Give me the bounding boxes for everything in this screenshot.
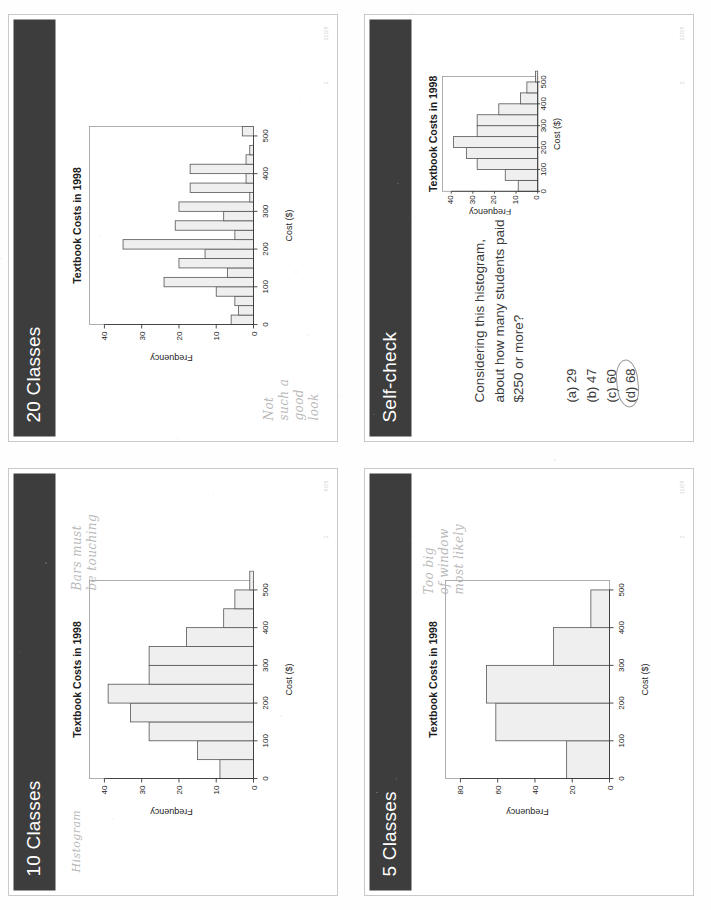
footer-stamp: 10/29 (322, 27, 328, 41)
x-tick-label: 500 (260, 129, 269, 143)
histogram-bar (190, 183, 253, 192)
footer-dots: · · · · · · · · · · · (677, 186, 683, 271)
y-tick-label: 20 (174, 785, 183, 794)
x-tick-label: 300 (260, 204, 269, 218)
option-c[interactable]: (c) 60 (601, 369, 621, 403)
footer-dots: · · · · · · · · · · · (321, 640, 327, 725)
slide-header-band: 10 Classes (13, 474, 55, 891)
option-d-value: 68 (622, 369, 637, 383)
option-b[interactable]: (b) 47 (581, 369, 601, 403)
histogram-bar (149, 722, 253, 741)
histogram-bar (234, 590, 253, 609)
footer-page-number: 2 (322, 82, 328, 85)
footer-page-number: 2 (678, 536, 684, 539)
handwritten-note-20-classes: Not such a good look (261, 379, 321, 421)
scan-artifact (311, 618, 313, 620)
histogram-bar (216, 287, 253, 296)
y-axis-label: Frequency (149, 807, 192, 817)
x-tick-label: 300 (260, 658, 269, 672)
y-tick-label: 10 (212, 331, 221, 340)
histogram-bar (227, 268, 253, 277)
slide-20-classes[interactable]: 20 Classes 0100200300400500010203040Text… (8, 14, 338, 442)
y-tick-label: 0 (249, 785, 258, 790)
scan-artifact (415, 809, 416, 810)
scanned-page: 20 Classes 0100200300400500010203040Text… (0, 0, 711, 910)
x-axis-label: Cost ($) (639, 663, 649, 695)
histogram-bar (526, 82, 537, 93)
slide-title: 20 Classes (22, 327, 44, 423)
scan-artifact (376, 792, 378, 794)
x-tick-label: 500 (616, 583, 625, 597)
footer-page-number: 2 (678, 82, 684, 85)
scan-artifact (177, 437, 179, 439)
slide-self-check[interactable]: Self-check Considering this histogram, a… (364, 14, 694, 442)
option-a-key: (a) (563, 387, 578, 403)
histogram-bar (123, 240, 253, 249)
x-tick-label: 0 (260, 776, 269, 781)
scan-artifact (0, 109, 1, 110)
histogram-bar (246, 155, 253, 164)
x-axis-label: Cost ($) (551, 118, 561, 150)
scan-artifact (516, 677, 517, 678)
option-d-key: (d) (622, 387, 637, 403)
histogram-bar (175, 221, 253, 230)
x-tick-label: 200 (260, 696, 269, 710)
y-tick-label: 40 (445, 195, 454, 204)
scan-artifact (554, 459, 556, 461)
histogram-bar (197, 741, 253, 760)
scan-artifact (338, 395, 340, 397)
scan-artifact (196, 557, 197, 558)
scan-artifact (156, 58, 157, 59)
y-axis-label: Frequency (468, 207, 511, 215)
scan-artifact (307, 334, 309, 336)
x-tick-label: 0 (260, 322, 269, 327)
option-c-key: (c) (603, 387, 618, 402)
histogram-10-classes: 0100200300400500010203040Textbook Costs … (63, 571, 299, 819)
histogram-bar (242, 127, 253, 136)
x-tick-label: 400 (538, 97, 547, 111)
scan-artifact (85, 749, 87, 751)
slide-body: 0100200300400500020406080Textbook Costs … (411, 474, 689, 891)
chart-title: Textbook Costs in 1998 (70, 167, 82, 284)
y-tick-label: 20 (489, 195, 498, 204)
x-tick-label: 500 (260, 583, 269, 597)
y-tick-label: 30 (137, 331, 146, 340)
footer-stamp: 9/29 (322, 481, 328, 492)
option-d[interactable]: (d) 68 (620, 369, 640, 403)
histogram-bar (486, 665, 609, 703)
histogram-bar (249, 571, 253, 590)
histogram-bar (477, 126, 538, 137)
slide-5-classes[interactable]: 5 Classes 0100200300400500020406080Textb… (364, 468, 694, 896)
slide-body: Considering this histogram, about how ma… (411, 20, 689, 437)
histogram-bar (249, 145, 253, 154)
histogram-bar (505, 169, 537, 180)
histogram-bar (566, 741, 609, 779)
y-tick-label: 40 (100, 331, 109, 340)
histogram-bar (495, 703, 609, 741)
histogram-bar (238, 306, 253, 315)
histogram-bar (234, 296, 253, 305)
option-a[interactable]: (a) 29 (561, 369, 581, 403)
slide-title: 10 Classes (22, 781, 44, 877)
handwritten-label-histogram: Histogram (69, 810, 83, 873)
y-tick-label: 0 (249, 331, 258, 336)
handwritten-note-5-classes: Too big of window most likely (421, 524, 466, 594)
histogram-bar (178, 202, 253, 211)
histogram-bar (149, 665, 253, 684)
histogram-bar (164, 277, 253, 286)
histogram-bar (535, 71, 537, 82)
histogram-bar (205, 249, 253, 258)
scan-artifact (529, 818, 530, 819)
option-c-value: 60 (603, 369, 618, 383)
scan-artifact (410, 540, 411, 541)
slide-10-classes[interactable]: 10 Classes 0100200300400500010203040Text… (8, 468, 338, 896)
slide-title: 5 Classes (378, 791, 400, 876)
y-tick-label: 20 (568, 785, 577, 794)
histogram-bar (590, 590, 609, 628)
histogram-bar (477, 115, 538, 126)
histogram-5-classes: 0100200300400500020406080Textbook Costs … (419, 571, 655, 819)
slide-header-band: 20 Classes (13, 20, 55, 437)
histogram-bar (130, 703, 253, 722)
histogram-bar (108, 684, 253, 703)
scan-artifact (280, 715, 281, 716)
